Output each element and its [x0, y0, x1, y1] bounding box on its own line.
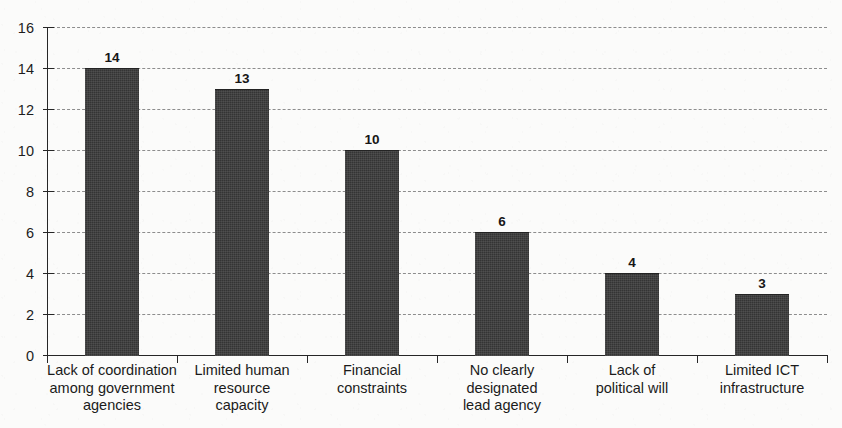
y-axis-tick-label: 16	[18, 20, 34, 36]
bar[interactable]: 13	[215, 89, 269, 357]
y-axis-tick-label: 0	[26, 348, 34, 364]
x-axis-tick	[827, 356, 828, 363]
y-axis-tick-label: 10	[18, 143, 34, 159]
y-axis-tick-label: 2	[26, 307, 34, 323]
bar-value-label: 3	[758, 276, 766, 291]
gridline	[47, 109, 827, 110]
category-label-line: resource	[177, 380, 307, 398]
category-label-line: infrastructure	[697, 380, 827, 398]
bar[interactable]: 4	[605, 273, 659, 356]
gridline	[47, 273, 827, 274]
x-axis	[47, 355, 828, 356]
bar-value-label: 13	[234, 71, 249, 86]
gridline	[47, 314, 827, 315]
bar-value-label: 6	[498, 214, 506, 229]
x-axis-category-label: Limited humanresourcecapacity	[177, 362, 307, 415]
gridline	[47, 150, 827, 151]
y-axis-tick: 2	[43, 314, 54, 315]
y-axis-tick-label: 12	[18, 102, 34, 118]
y-axis: 0246810121416	[47, 27, 48, 356]
bar[interactable]: 10	[345, 150, 399, 356]
bar[interactable]: 14	[85, 68, 139, 356]
bar[interactable]: 3	[735, 294, 789, 357]
y-axis-tick: 12	[43, 109, 54, 110]
category-label-line: Limited human	[177, 362, 307, 380]
gridline	[47, 68, 827, 69]
gridline	[47, 27, 827, 28]
y-axis-tick: 8	[43, 191, 54, 192]
category-label-line: political will	[567, 380, 697, 398]
y-axis-tick-label: 8	[26, 184, 34, 200]
y-axis-tick: 16	[43, 27, 54, 28]
category-label-line: capacity	[177, 397, 307, 415]
category-label-line: designated	[437, 380, 567, 398]
y-axis-tick-label: 6	[26, 225, 34, 241]
bar-value-label: 14	[104, 50, 119, 65]
y-axis-tick-label: 14	[18, 61, 34, 77]
bar-value-label: 10	[364, 132, 379, 147]
category-label-line: Lack of	[567, 362, 697, 380]
plot-area	[47, 27, 827, 355]
x-axis-category-label: No clearlydesignatedlead agency	[437, 362, 567, 415]
y-axis-tick: 14	[43, 68, 54, 69]
y-axis-tick: 10	[43, 150, 54, 151]
category-label-line: Limited ICT	[697, 362, 827, 380]
category-label-line: constraints	[307, 380, 437, 398]
bar[interactable]: 6	[475, 232, 529, 356]
category-label-line: lead agency	[437, 397, 567, 415]
category-label-line: Financial	[307, 362, 437, 380]
gridline	[47, 191, 827, 192]
category-label-line: among government	[47, 380, 177, 398]
category-label-line: Lack of coordination	[47, 362, 177, 380]
category-label-line: agencies	[47, 397, 177, 415]
x-axis-category-label: Lack of coordinationamong governmentagen…	[47, 362, 177, 415]
x-axis-category-label: Financialconstraints	[307, 362, 437, 397]
cropped-header-strip	[0, 0, 842, 10]
bar-value-label: 4	[628, 255, 636, 270]
x-axis-category-label: Lack ofpolitical will	[567, 362, 697, 397]
y-axis-tick: 4	[43, 273, 54, 274]
category-label-line: No clearly	[437, 362, 567, 380]
x-axis-category-label: Limited ICTinfrastructure	[697, 362, 827, 397]
y-axis-tick: 6	[43, 232, 54, 233]
gridline	[47, 232, 827, 233]
y-axis-tick-label: 4	[26, 266, 34, 282]
bar-chart-figure: 0246810121416 14Lack of coordinationamon…	[0, 0, 842, 428]
